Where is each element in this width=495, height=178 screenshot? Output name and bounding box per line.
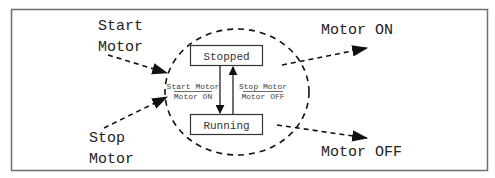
input-label-stop-motor: Stop Motor — [89, 130, 134, 168]
input-arrow-start-motor — [108, 55, 167, 73]
input-label-start-motor: Start Motor — [98, 18, 152, 56]
transition-label-stop: Stop Motor Motor OFF — [239, 82, 287, 101]
state-label-stopped: Stopped — [203, 51, 249, 63]
output-arrow-motor-on — [282, 48, 367, 65]
state-label-running: Running — [203, 120, 249, 132]
state-diagram: Start Motor Stop Motor Motor ON Motor OF… — [0, 0, 495, 178]
output-label-motor-off: Motor OFF — [321, 144, 402, 161]
state-stopped: Stopped — [191, 46, 263, 66]
output-label-motor-on: Motor ON — [321, 22, 393, 39]
transition-label-start: Start Motor Motor ON — [167, 82, 220, 101]
input-arrow-stop-motor — [104, 97, 167, 128]
transition-event-start: Start Motor — [167, 82, 220, 91]
transition-action-stop: Motor OFF — [241, 92, 284, 101]
output-arrow-motor-off — [277, 125, 367, 138]
transition-action-start: Motor ON — [174, 92, 213, 101]
transition-event-stop: Stop Motor — [239, 82, 287, 91]
state-running: Running — [191, 115, 263, 135]
